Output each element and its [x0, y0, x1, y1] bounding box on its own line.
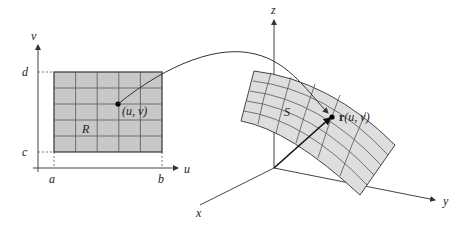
- uv-point-label: (u, v): [122, 104, 147, 118]
- tick-c: c: [22, 145, 28, 159]
- z-axis-label: z: [270, 3, 276, 17]
- diagram-canvas: v u d c a b R (u, v): [0, 0, 460, 225]
- xyz-space: z y x S r(u, v): [195, 3, 449, 220]
- x-axis: [200, 168, 274, 205]
- tick-d: d: [22, 65, 29, 79]
- y-axis-label: y: [442, 194, 449, 208]
- r-args: (u, v): [344, 110, 369, 124]
- x-axis-label: x: [195, 206, 202, 220]
- r-point-label: r(u, v): [339, 110, 370, 124]
- v-axis-label: v: [31, 29, 37, 43]
- tick-a: a: [49, 172, 55, 186]
- uv-plane: v u d c a b R (u, v): [22, 29, 190, 186]
- region-label: R: [81, 122, 90, 136]
- u-axis-label: u: [184, 162, 190, 176]
- tick-b: b: [158, 172, 164, 186]
- r-point: [329, 114, 334, 119]
- surface-label: S: [284, 105, 290, 119]
